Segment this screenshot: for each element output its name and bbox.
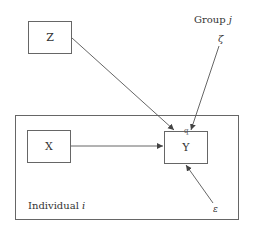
edge-z-to-y bbox=[72, 38, 174, 130]
group-level-label: Group j bbox=[194, 15, 232, 25]
node-z-label: Z bbox=[46, 31, 54, 44]
edge-epsilon-to-y bbox=[186, 165, 213, 203]
group-index: j bbox=[229, 14, 232, 25]
node-z: Z bbox=[28, 21, 72, 54]
node-x: X bbox=[27, 130, 71, 163]
group-label-text: Group bbox=[194, 14, 226, 25]
epsilon-label: ε bbox=[213, 204, 218, 214]
node-y-label: Y bbox=[182, 141, 189, 154]
edge-zeta-to-y bbox=[191, 46, 219, 130]
individual-level-label: Individual i bbox=[28, 201, 85, 211]
node-y-marker: q bbox=[184, 127, 188, 135]
individual-label-text: Individual bbox=[28, 200, 79, 211]
node-x-label: X bbox=[45, 140, 53, 153]
zeta-label: ζ bbox=[218, 34, 223, 44]
individual-index: i bbox=[82, 200, 85, 211]
node-y: Y bbox=[164, 131, 208, 164]
